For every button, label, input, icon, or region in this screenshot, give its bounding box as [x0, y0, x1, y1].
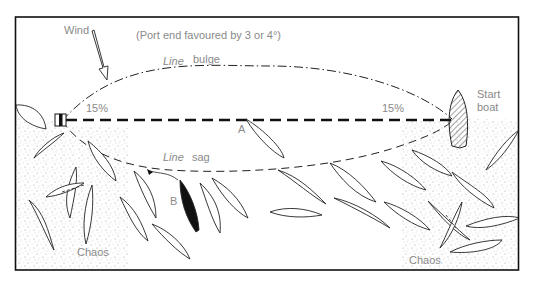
boat-icon: [330, 163, 376, 202]
boat-icon: [270, 208, 322, 217]
boat-a-label: A: [238, 124, 245, 135]
start-boat-label-line2: boat: [477, 102, 498, 113]
start-line-diagram: Wind (Port end favoured by 3 or 4°) Line…: [0, 0, 533, 283]
line-bulge-label-line: Line: [163, 56, 184, 67]
wind-label: Wind: [64, 25, 89, 36]
pct-right-label: 15%: [382, 103, 404, 114]
sag-pointer: [150, 171, 178, 180]
pct-left-label: 15%: [86, 103, 108, 114]
wind-arrow-icon: [92, 30, 108, 80]
boat-icon: [152, 224, 190, 259]
pin-end-buoy-icon: [55, 114, 66, 126]
start-boat-label-line1: Start: [477, 89, 500, 100]
line-sag-label-line: Line: [163, 152, 184, 163]
boat-a-icon: [246, 119, 284, 158]
chaos-right-label: Chaos: [409, 255, 441, 266]
boat-b-label: B: [170, 196, 177, 207]
line-bulge-label-bulge: bulge: [193, 54, 220, 65]
boat-icon: [278, 170, 326, 204]
boat-icon: [200, 183, 220, 233]
diagram-canvas: [0, 0, 533, 283]
boat-icon: [134, 171, 156, 218]
boat-b-icon: [180, 180, 199, 232]
chaos-left-label: Chaos: [77, 247, 109, 258]
boat-icon: [334, 198, 390, 228]
start-boat-icon: [449, 90, 467, 148]
line-sag-label-sag: sag: [192, 152, 210, 163]
title-note: (Port end favoured by 3 or 4°): [136, 30, 281, 41]
